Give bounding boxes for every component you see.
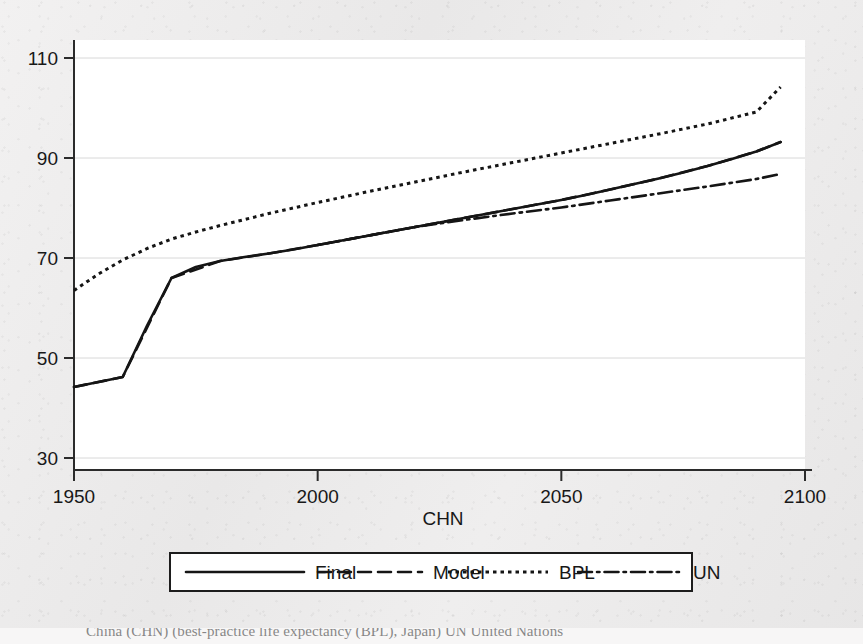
x-tick-label-group: 1950200020502100 (53, 486, 826, 507)
x-tick-label-2050: 2050 (540, 486, 582, 507)
y-tick-group (64, 58, 74, 458)
y-tick-label-50: 50 (37, 348, 58, 369)
x-axis-label: CHN (422, 508, 463, 529)
x-tick-label-1950: 1950 (53, 486, 95, 507)
figure-caption-strip: China (CHN) (best-practice life expectan… (0, 628, 863, 644)
chart-legend: FinalModelBPLUN (170, 553, 720, 591)
y-tick-label-110: 110 (28, 48, 58, 69)
y-tick-label-70: 70 (37, 248, 58, 269)
figure-root: 30507090110 1950200020502100 CHN FinalMo… (0, 0, 863, 644)
life-expectancy-line-chart: 30507090110 1950200020502100 CHN FinalMo… (0, 0, 863, 644)
y-tick-label-group: 30507090110 (28, 48, 58, 469)
x-tick-label-2100: 2100 (784, 486, 826, 507)
legend-label-un: UN (693, 562, 720, 583)
x-tick-group (74, 470, 805, 481)
y-tick-label-90: 90 (37, 148, 58, 169)
x-tick-label-2000: 2000 (297, 486, 339, 507)
plot-background (74, 40, 805, 470)
figure-caption: China (CHN) (best-practice life expectan… (86, 628, 563, 640)
y-tick-label-30: 30 (37, 448, 58, 469)
